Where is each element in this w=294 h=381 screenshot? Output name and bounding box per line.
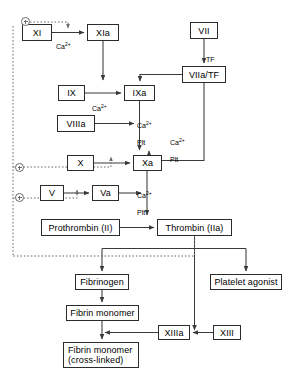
plus-feedback-icon-x — [15, 163, 24, 172]
node-ixa[interactable]: IXa — [124, 85, 155, 101]
edge-label-ca-plt-xa: Ca2+ Plt — [137, 184, 152, 225]
ca-line: Ca2+ — [137, 122, 152, 130]
ca-charge: 2+ — [146, 190, 152, 196]
ca-charge: 2+ — [146, 120, 152, 126]
node-xi[interactable]: XI — [22, 24, 52, 41]
feedback-thrombin-to-spine — [13, 236, 195, 256]
ca-charge: 2+ — [101, 103, 107, 109]
node-xiiia[interactable]: XIIIa — [158, 325, 190, 340]
ca-text: Ca — [92, 105, 101, 112]
ca-charge: 2+ — [65, 41, 71, 47]
node-thrombin[interactable]: Thrombin (IIa) — [157, 219, 232, 236]
edge-thrombin-branch-bar — [102, 236, 246, 262]
node-v[interactable]: V — [40, 185, 64, 201]
node-xa[interactable]: Xa — [133, 155, 162, 171]
edge-label-ca-plt-ixa: Ca2+ Plt — [137, 114, 152, 155]
edge-label-ca-plt-viiatf: Ca2+ Plt — [170, 131, 185, 172]
ca-line: Ca2+ — [170, 139, 185, 147]
node-fibrinogen[interactable]: Fibrinogen — [75, 274, 129, 290]
plus-feedback-icon-xi — [21, 17, 30, 26]
ca-text: Ca — [137, 192, 146, 199]
edge-label-ca-xi-xia: Ca2+ — [56, 35, 71, 51]
node-ix[interactable]: IX — [58, 85, 85, 101]
plt-text: Plt — [170, 156, 185, 164]
node-viia-tf[interactable]: VIIa/TF — [182, 66, 226, 83]
plt-text: Plt — [137, 139, 152, 147]
node-prothrombin[interactable]: Prothrombin (II) — [41, 219, 120, 236]
edge-label-ca-ix-ixa: Ca2+ — [92, 97, 107, 113]
tf-text: TF — [206, 56, 215, 63]
node-fibrin-crosslinked[interactable]: Fibrin monomer (cross-linked) — [63, 342, 139, 368]
ca-text: Ca — [137, 122, 146, 129]
node-viiia[interactable]: VIIIa — [57, 115, 95, 132]
plt-text: Plt — [137, 209, 152, 217]
feedback-spine-to-x-xa — [13, 157, 111, 167]
edge-viiatf-to-ixa — [140, 75, 182, 82]
edge-label-tf: TF — [206, 48, 215, 64]
plus-feedback-icon-v — [15, 193, 24, 202]
node-vii[interactable]: VII — [190, 22, 218, 39]
node-platelet-agonist[interactable]: Platelet agonist — [210, 274, 282, 290]
node-xia[interactable]: XIa — [87, 24, 119, 41]
ca-line: Ca2+ — [137, 192, 152, 200]
node-x[interactable]: X — [67, 155, 94, 171]
ca-charge: 2+ — [179, 137, 185, 143]
node-xiii[interactable]: XIII — [213, 325, 241, 340]
ca-text: Ca — [56, 43, 65, 50]
node-va[interactable]: Va — [92, 185, 119, 201]
node-fibrin-monomer[interactable]: Fibrin monomer — [66, 305, 139, 321]
diagram-canvas: XI XIa VII VIIa/TF IX IXa VIIIa X Xa V V… — [0, 0, 294, 381]
ca-text: Ca — [170, 139, 179, 146]
